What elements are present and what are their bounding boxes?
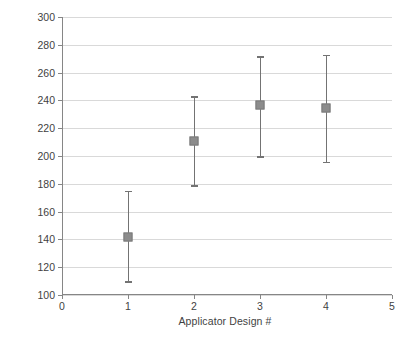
gridline	[62, 239, 392, 240]
x-tick-mark	[260, 295, 261, 299]
gridline	[62, 128, 392, 129]
y-tick-label: 120	[37, 261, 55, 273]
y-tick-label: 180	[37, 178, 55, 190]
x-tick-label: 4	[323, 300, 329, 312]
y-tick-mark	[58, 100, 62, 101]
error-bar-cap-upper	[191, 96, 198, 98]
y-tick-mark	[58, 156, 62, 157]
error-bar-cap-upper	[257, 56, 264, 58]
error-bar-cap-upper	[323, 55, 330, 57]
error-bar-cap-lower	[191, 185, 198, 187]
chart-container: Depth of Penetration (µm) Applicator Des…	[0, 0, 411, 339]
data-point-marker[interactable]	[322, 104, 331, 113]
x-tick-label: 5	[389, 300, 395, 312]
x-tick-label: 1	[125, 300, 131, 312]
error-bar-cap-lower	[125, 281, 132, 283]
error-bar-cap-lower	[323, 162, 330, 164]
y-tick-label: 200	[37, 150, 55, 162]
y-tick-mark	[58, 212, 62, 213]
y-tick-mark	[58, 184, 62, 185]
y-tick-label: 160	[37, 206, 55, 218]
gridline	[62, 45, 392, 46]
error-bar-cap-upper	[125, 191, 132, 193]
data-point-marker[interactable]	[124, 233, 133, 242]
y-tick-label: 140	[37, 233, 55, 245]
y-tick-mark	[58, 267, 62, 268]
data-point-marker[interactable]	[256, 101, 265, 110]
gridline	[62, 73, 392, 74]
x-tick-mark	[128, 295, 129, 299]
y-tick-label: 300	[37, 11, 55, 23]
y-tick-label: 260	[37, 67, 55, 79]
gridline	[62, 156, 392, 157]
y-tick-mark	[58, 239, 62, 240]
gridline	[62, 267, 392, 268]
gridline	[62, 17, 392, 18]
x-tick-mark	[62, 295, 63, 299]
x-tick-mark	[326, 295, 327, 299]
gridline	[62, 295, 392, 296]
gridline	[62, 212, 392, 213]
y-tick-mark	[58, 128, 62, 129]
y-tick-label: 240	[37, 94, 55, 106]
y-tick-mark	[58, 45, 62, 46]
y-tick-label: 280	[37, 39, 55, 51]
plot-area: 100120140160180200220240260280300 012345	[62, 17, 392, 295]
y-tick-label: 220	[37, 122, 55, 134]
y-tick-mark	[58, 17, 62, 18]
y-tick-mark	[58, 73, 62, 74]
y-axis-line	[62, 17, 63, 295]
gridline	[62, 100, 392, 101]
x-tick-label: 0	[59, 300, 65, 312]
x-axis-line	[62, 294, 392, 295]
x-tick-mark	[392, 295, 393, 299]
error-bar-cap-lower	[257, 156, 264, 158]
gridline	[62, 184, 392, 185]
x-tick-label: 3	[257, 300, 263, 312]
data-point-marker[interactable]	[190, 136, 199, 145]
x-axis-title: Applicator Design #	[55, 315, 395, 327]
x-tick-mark	[194, 295, 195, 299]
y-tick-label: 100	[37, 289, 55, 301]
x-tick-label: 2	[191, 300, 197, 312]
